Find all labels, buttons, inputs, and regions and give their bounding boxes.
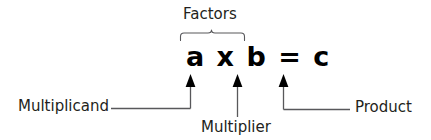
factors-brace-icon	[181, 30, 245, 41]
multiplier-arrowhead-icon	[233, 74, 243, 87]
product-connector	[284, 84, 351, 110]
multiplicand-arrowhead-icon	[186, 74, 196, 87]
multiplicand-connector	[111, 84, 191, 109]
product-arrowhead-icon	[279, 74, 289, 87]
diagram-vector-overlay	[0, 0, 431, 140]
multiplication-diagram: Factors a x b = c Multiplicand Multiplie…	[0, 0, 431, 140]
